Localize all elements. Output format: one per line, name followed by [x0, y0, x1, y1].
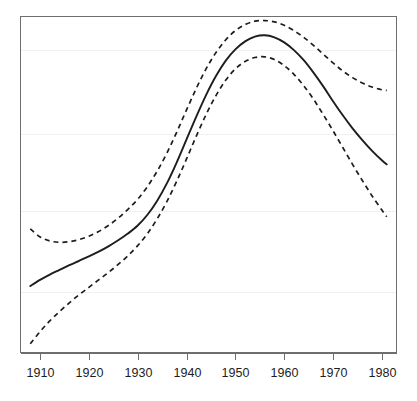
x-tick-label-1920: 1920: [76, 366, 104, 380]
x-tick-label-1930: 1930: [125, 366, 153, 380]
x-tick-label-1960: 1960: [271, 366, 299, 380]
x-tick-label-1980: 1980: [369, 366, 397, 380]
x-tick-label-1910: 1910: [27, 366, 55, 380]
x-tick-label-1970: 1970: [320, 366, 348, 380]
x-tick-label-1940: 1940: [174, 366, 202, 380]
figure-background: [0, 0, 417, 401]
x-tick-label-1950: 1950: [222, 366, 250, 380]
line-chart-figure: 19101920193019401950196019701980: [0, 0, 417, 401]
chart-container: 19101920193019401950196019701980: [0, 0, 417, 401]
